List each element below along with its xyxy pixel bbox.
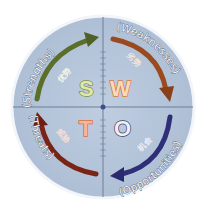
letter-w: W [110, 76, 131, 101]
center-dot [101, 105, 106, 110]
swot-diagram: (Strengths) (Weaknesses) (Threats) (Oppo… [0, 0, 207, 209]
letter-t: T [79, 116, 93, 141]
letter-s: S [79, 76, 94, 101]
letter-o: O [114, 116, 131, 141]
